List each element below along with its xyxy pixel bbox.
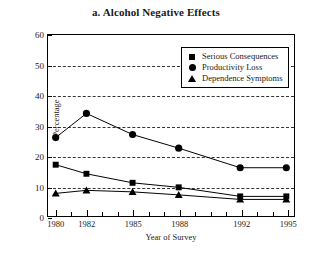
x-tick-label: 1982 bbox=[78, 220, 95, 229]
series-line bbox=[56, 190, 287, 199]
x-tick-label: 1980 bbox=[47, 220, 64, 229]
y-tick-label: 40 bbox=[35, 92, 44, 101]
legend-item: Serious Consequences bbox=[186, 51, 283, 62]
x-tick-label: 1985 bbox=[125, 220, 142, 229]
plot-area: Percentage Year of Survey 0102030405060 … bbox=[47, 34, 295, 217]
series-line bbox=[56, 165, 287, 197]
y-tick-label: 0 bbox=[40, 214, 45, 223]
legend: Serious ConsequencesProductivity LossDep… bbox=[181, 47, 289, 88]
data-point bbox=[83, 171, 89, 177]
legend-item: Dependence Symptoms bbox=[186, 73, 283, 84]
figure: a. Alcohol Negative Effects Percentage Y… bbox=[0, 0, 312, 259]
data-point bbox=[175, 145, 182, 152]
y-tick-label: 30 bbox=[35, 122, 44, 131]
y-tick-label: 60 bbox=[35, 31, 44, 40]
square-marker-icon bbox=[186, 51, 198, 62]
circle-marker-icon bbox=[186, 62, 198, 73]
x-tick-label: 1995 bbox=[280, 220, 297, 229]
x-axis-label: Year of Survey bbox=[48, 232, 294, 242]
data-point bbox=[130, 180, 136, 186]
y-tick-label: 20 bbox=[35, 153, 44, 162]
legend-label: Dependence Symptoms bbox=[202, 74, 283, 83]
data-point bbox=[237, 164, 244, 171]
data-point bbox=[283, 164, 290, 171]
data-point bbox=[53, 162, 59, 168]
chart-title: a. Alcohol Negative Effects bbox=[0, 6, 312, 18]
data-point bbox=[52, 134, 59, 141]
y-tick-label: 50 bbox=[35, 61, 44, 70]
legend-label: Serious Consequences bbox=[202, 52, 278, 61]
legend-item: Productivity Loss bbox=[186, 62, 283, 73]
data-point bbox=[176, 184, 182, 190]
data-point bbox=[129, 131, 136, 138]
legend-label: Productivity Loss bbox=[202, 63, 262, 72]
y-tick-label: 10 bbox=[35, 183, 44, 192]
series-line bbox=[56, 113, 287, 167]
x-tick-label: 1988 bbox=[171, 220, 188, 229]
x-tick-label: 1992 bbox=[233, 220, 250, 229]
data-point bbox=[83, 110, 90, 117]
triangle-marker-icon bbox=[186, 73, 198, 84]
